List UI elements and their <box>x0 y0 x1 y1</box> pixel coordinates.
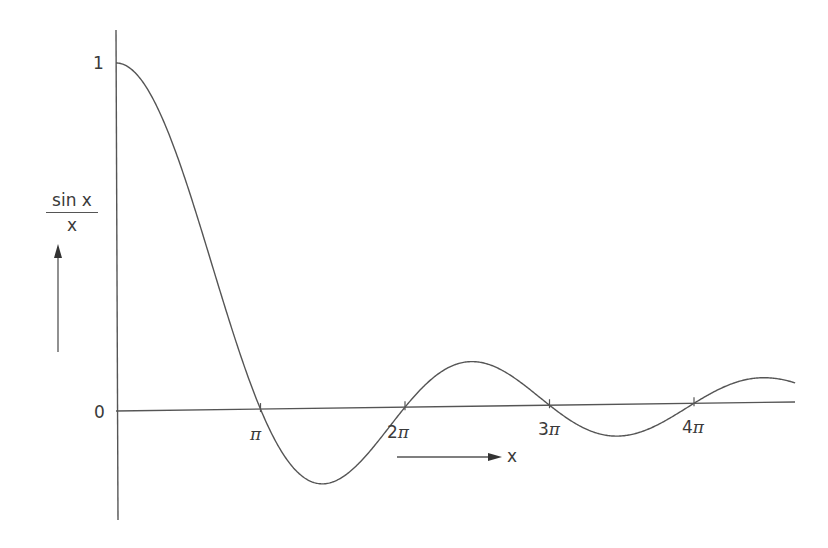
x-tick-label-pi: π <box>250 426 261 443</box>
x-axis-label: x <box>507 448 517 465</box>
x-tick-label-3pi: 3π <box>538 421 560 438</box>
x-tick-label-4pi: 4π <box>682 419 704 436</box>
x-arrow-head-icon <box>488 453 502 461</box>
pi-symbol: π <box>693 417 704 437</box>
axes <box>116 30 795 520</box>
tick-multiplier: 2 <box>387 422 398 442</box>
y-axis <box>116 30 118 520</box>
y-tick-label-1: 1 <box>93 55 104 72</box>
y-label-denominator: x <box>46 213 98 235</box>
y-tick-label-0: 0 <box>94 404 105 421</box>
tick-multiplier: 3 <box>538 419 549 439</box>
sinc-chart <box>0 0 828 548</box>
tick-multiplier: 4 <box>682 417 693 437</box>
y-axis-label: sin x x <box>46 190 98 235</box>
y-arrow-head-icon <box>54 244 62 258</box>
y-label-numerator: sin x <box>46 190 98 213</box>
pi-symbol: π <box>549 419 560 439</box>
x-tick-label-2pi: 2π <box>387 424 409 441</box>
pi-symbol: π <box>398 422 409 442</box>
